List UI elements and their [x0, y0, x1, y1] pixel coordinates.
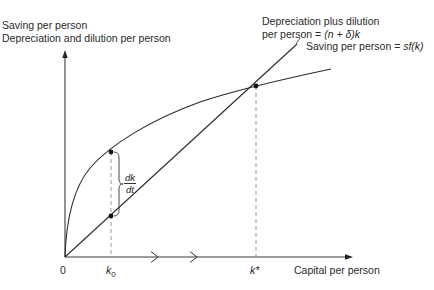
saving-label: Saving per person = sf(k)	[306, 40, 424, 53]
saving-formula: sf(k)	[403, 40, 423, 52]
x-axis-arrowhead-icon	[345, 254, 353, 259]
depreciation-label-prefix: per person =	[262, 28, 324, 40]
depreciation-formula: (n + δ)k	[324, 28, 360, 40]
y-axis-label-line2: Depreciation and dilution per person	[2, 32, 171, 45]
k0-subscript: 0	[111, 270, 115, 279]
gap-brace-icon	[114, 152, 123, 216]
saving-curve	[65, 69, 331, 257]
dk-dt-label: dk dt	[124, 172, 136, 195]
saving-label-prefix: Saving per person =	[306, 40, 403, 52]
x-axis-label: Capital per person	[294, 264, 380, 277]
depreciation-line	[65, 44, 297, 257]
y-axis-arrowhead-icon	[62, 50, 67, 58]
k0-label: k0	[106, 264, 116, 281]
kstar-label: k*	[250, 264, 259, 277]
saving-point-k0	[109, 150, 114, 155]
steady-state-point	[254, 84, 259, 89]
y-axis-label-line1: Saving per person	[2, 19, 87, 32]
origin-label: 0	[60, 264, 66, 277]
dt-denominator: dt	[124, 184, 136, 195]
depreciation-label-line1: Depreciation plus dilution	[262, 15, 379, 28]
dk-numerator: dk	[124, 172, 136, 184]
depreciation-point-k0	[109, 214, 114, 219]
